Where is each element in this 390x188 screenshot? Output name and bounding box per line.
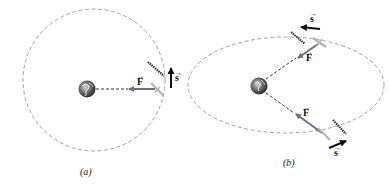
vector-arrow-icon: →	[334, 143, 338, 153]
panel-a	[23, 9, 171, 151]
caption-a: (a)	[80, 166, 92, 177]
force-label-b-bottom: → F	[303, 108, 309, 118]
satellite-bottom-icon	[318, 128, 330, 140]
displacement-label-a: → s	[175, 73, 179, 83]
displacement-label-b-top: → s	[310, 14, 314, 24]
vector-arrow-icon: →	[306, 48, 312, 58]
earth-icon	[79, 81, 96, 98]
vector-arrow-icon: →	[310, 9, 314, 19]
panel-b	[188, 27, 384, 148]
caption-b: (b)	[283, 157, 295, 168]
force-label-a: → F	[137, 77, 143, 87]
displacement-arrow-top	[301, 27, 320, 29]
satellite-next-icon	[148, 62, 164, 76]
satellite-bottom-next-icon	[333, 120, 346, 134]
orbit-diagram	[0, 0, 390, 188]
earth-icon	[251, 78, 268, 95]
radius-line-top	[266, 58, 296, 79]
displacement-label-b-bottom: → s	[334, 148, 338, 158]
vector-arrow-icon: →	[137, 72, 143, 82]
radius-line-bottom	[266, 93, 294, 113]
elliptical-orbit	[188, 37, 384, 133]
vector-arrow-icon: →	[175, 68, 179, 78]
force-label-b-top: → F	[306, 53, 312, 63]
vector-arrow-icon: →	[303, 103, 309, 113]
